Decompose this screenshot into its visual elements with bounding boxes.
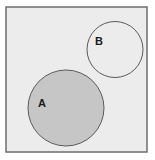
set-b-label: B [95, 35, 103, 47]
set-a-label: A [38, 97, 46, 109]
venn-diagram: A B [0, 0, 155, 160]
set-b-circle [87, 22, 143, 78]
